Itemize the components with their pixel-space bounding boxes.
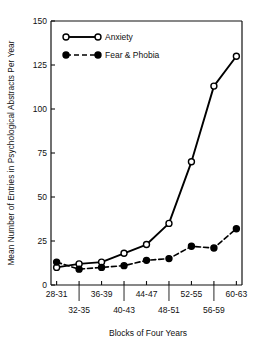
x-tick-label: 28-31 <box>46 289 68 299</box>
data-point-filled <box>188 243 194 249</box>
data-point-open <box>211 83 217 89</box>
x-tick-label: 40-43 <box>113 305 135 315</box>
legend-marker-filled <box>95 52 101 58</box>
data-point-open <box>188 159 194 165</box>
x-tick-label: 44-47 <box>136 289 158 299</box>
data-point-open <box>166 220 172 226</box>
data-point-filled <box>233 226 239 232</box>
x-tick-label: 48-51 <box>158 305 180 315</box>
y-tick-group: 0255075100125150 <box>33 16 55 290</box>
x-tick-group: 28-3132-3536-3940-4344-4748-5152-5556-59… <box>46 281 248 315</box>
data-point-filled <box>54 259 60 265</box>
data-point-filled <box>121 263 127 269</box>
legend-label-1: Anxiety <box>105 32 134 42</box>
x-tick-label: 60-63 <box>226 289 248 299</box>
legend-marker-filled <box>63 52 69 58</box>
data-point-open <box>144 242 150 248</box>
data-point-open <box>233 53 239 59</box>
data-point-open <box>121 250 127 256</box>
y-tick-label: 150 <box>33 16 47 26</box>
legend-marker-open <box>63 34 69 40</box>
x-tick-label: 32-35 <box>68 305 90 315</box>
x-tick-label: 36-39 <box>91 289 113 299</box>
line-chart: 025507510012515028-3132-3536-3940-4344-4… <box>0 0 255 343</box>
x-tick-label: 56-59 <box>203 305 225 315</box>
series-line-anxiety <box>57 56 237 267</box>
y-tick-label: 100 <box>33 104 47 114</box>
legend-label-2: Fear & Phobia <box>105 50 160 60</box>
y-tick-label: 50 <box>38 192 48 202</box>
x-axis-title: Blocks of Four Years <box>109 328 187 338</box>
legend-marker-open <box>95 34 101 40</box>
y-tick-label: 75 <box>38 148 48 158</box>
x-tick-label: 52-55 <box>181 289 203 299</box>
y-axis-title: Mean Number of Entries in Psychological … <box>7 40 16 265</box>
legend: AnxietyFear & Phobia <box>63 32 160 60</box>
chart-figure: 025507510012515028-3132-3536-3940-4344-4… <box>0 0 255 343</box>
data-point-filled <box>76 266 82 272</box>
data-point-filled <box>144 257 150 263</box>
series-group <box>54 53 240 272</box>
data-point-filled <box>211 245 217 251</box>
data-point-filled <box>166 256 172 262</box>
data-point-filled <box>99 264 105 270</box>
y-tick-label: 25 <box>38 236 48 246</box>
y-tick-label: 125 <box>33 60 47 70</box>
